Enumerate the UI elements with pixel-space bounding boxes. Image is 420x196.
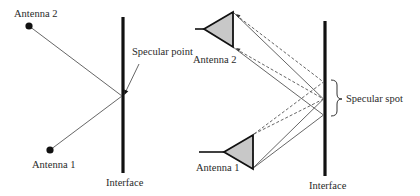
antenna1-dot [46,146,53,153]
right-antenna1-label: Antenna 1 [196,163,239,174]
left-antenna2-label: Antenna 2 [14,9,57,20]
left-panel [25,17,139,173]
specular-spot-brace [331,80,342,116]
right-interface-label: Interface [309,181,346,192]
specular-spot-label: Specular spot [346,94,403,105]
antenna2-dashed-ray-top [236,15,324,82]
specular-point-label: Specular point [132,47,193,58]
antenna1-solid-ray-upper [252,99,324,169]
antenna1-solid-ray-lower [252,115,324,169]
antenna2-solid-ray-bottom [233,47,324,115]
antenna1-dashed-ray-lower [254,99,324,134]
left-interface-label: Interface [106,178,143,189]
specular-point-leader [126,64,140,92]
antenna2-dot [25,22,32,29]
antenna2-horn-icon [204,12,233,47]
right-antenna2-label: Antenna 2 [193,55,236,66]
antenna1-dashed-ray-upper [254,82,324,134]
right-panel [195,12,342,176]
left-antenna1-label: Antenna 1 [32,160,75,171]
left-ray-antenna1 [50,96,122,150]
left-ray-antenna2 [29,26,122,96]
